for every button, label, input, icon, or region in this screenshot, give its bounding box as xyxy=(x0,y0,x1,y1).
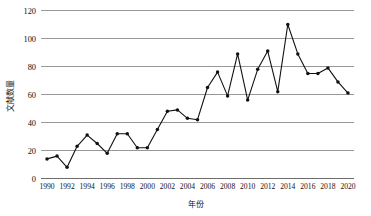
x-tick-label: 2008 xyxy=(220,182,235,191)
data-point-marker xyxy=(55,154,59,158)
x-tick-label: 2014 xyxy=(280,182,295,191)
x-tick-label: 2004 xyxy=(180,182,195,191)
y-tick-label: 0 xyxy=(32,175,36,184)
data-point-marker xyxy=(256,68,260,72)
data-point-marker xyxy=(45,157,49,161)
data-point-marker xyxy=(346,91,350,95)
data-point-marker xyxy=(216,70,220,74)
data-point-marker xyxy=(306,72,310,76)
data-point-marker xyxy=(176,108,180,112)
x-tick-label: 1992 xyxy=(59,182,74,191)
data-point-marker xyxy=(266,49,270,53)
line-chart: 020406080100120 199019921994199619982000… xyxy=(0,0,371,216)
x-tick-label: 2018 xyxy=(320,182,335,191)
data-point-marker xyxy=(286,23,290,27)
y-tick-label: 100 xyxy=(23,35,36,44)
x-tick-label: 2016 xyxy=(300,182,315,191)
y-tick-label: 20 xyxy=(28,147,36,156)
data-point-marker xyxy=(95,142,99,146)
data-point-marker xyxy=(136,146,140,150)
data-point-marker xyxy=(316,72,320,76)
data-series-group xyxy=(45,23,349,169)
data-point-marker xyxy=(206,86,210,90)
x-tick-labels-group: 1990199219941996199820002002200420062008… xyxy=(39,182,355,191)
data-point-marker xyxy=(246,98,250,102)
x-tick-label: 1996 xyxy=(100,182,115,191)
x-tick-label: 1994 xyxy=(80,182,95,191)
data-point-marker xyxy=(186,117,190,121)
data-point-marker xyxy=(115,132,119,136)
series-line xyxy=(47,25,348,168)
x-tick-label: 2012 xyxy=(260,182,275,191)
y-tick-label: 40 xyxy=(28,119,36,128)
x-tick-label: 2010 xyxy=(240,182,255,191)
data-point-marker xyxy=(75,145,79,149)
y-axis-title: 文献数量 xyxy=(5,80,15,112)
data-point-marker xyxy=(296,52,300,56)
x-tick-label: 2006 xyxy=(200,182,215,191)
chart-figure: 020406080100120 199019921994199619982000… xyxy=(0,0,371,216)
data-point-marker xyxy=(326,66,330,70)
data-point-marker xyxy=(276,90,280,94)
data-point-marker xyxy=(105,152,109,156)
y-tick-label: 120 xyxy=(23,7,36,16)
data-point-marker xyxy=(156,128,160,132)
x-tick-label: 2000 xyxy=(140,182,155,191)
data-point-marker xyxy=(226,94,230,98)
data-point-marker xyxy=(146,146,150,150)
data-point-marker xyxy=(126,132,130,136)
data-point-marker xyxy=(166,110,170,114)
y-tick-label: 80 xyxy=(28,63,36,72)
x-tick-label: 2002 xyxy=(160,182,175,191)
y-tick-labels-group: 020406080100120 xyxy=(23,7,36,184)
y-tick-label: 60 xyxy=(28,91,36,100)
x-tick-label: 1990 xyxy=(39,182,54,191)
gridlines-group xyxy=(41,11,354,179)
x-tick-label: 2020 xyxy=(340,182,355,191)
data-point-marker xyxy=(236,52,240,56)
data-point-marker xyxy=(85,133,89,137)
x-axis-title: 年份 xyxy=(188,199,204,209)
x-tick-label: 1998 xyxy=(120,182,135,191)
data-point-marker xyxy=(336,80,340,84)
data-point-marker xyxy=(65,166,69,170)
data-point-marker xyxy=(196,118,200,122)
